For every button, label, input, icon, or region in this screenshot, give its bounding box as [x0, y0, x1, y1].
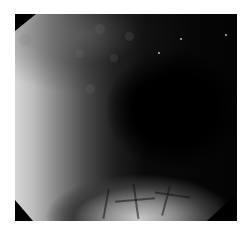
mucosal-nodule	[75, 49, 84, 58]
mucosal-nodule	[19, 34, 31, 46]
light-reflection	[225, 34, 227, 36]
endoscopic-image	[15, 14, 237, 221]
mucosal-nodule	[125, 32, 134, 41]
scope-mask-corner	[15, 14, 36, 31]
mucosal-nodule	[95, 24, 105, 34]
mucosal-nodule	[85, 84, 95, 94]
mucosal-nodule	[110, 54, 118, 62]
mucosa-scene	[15, 14, 237, 221]
scope-mask-corner	[15, 200, 33, 221]
light-reflection	[158, 52, 160, 54]
scope-mask-corner	[207, 193, 237, 221]
light-reflection	[180, 38, 182, 40]
upper-mucosa-glow	[15, 14, 237, 221]
